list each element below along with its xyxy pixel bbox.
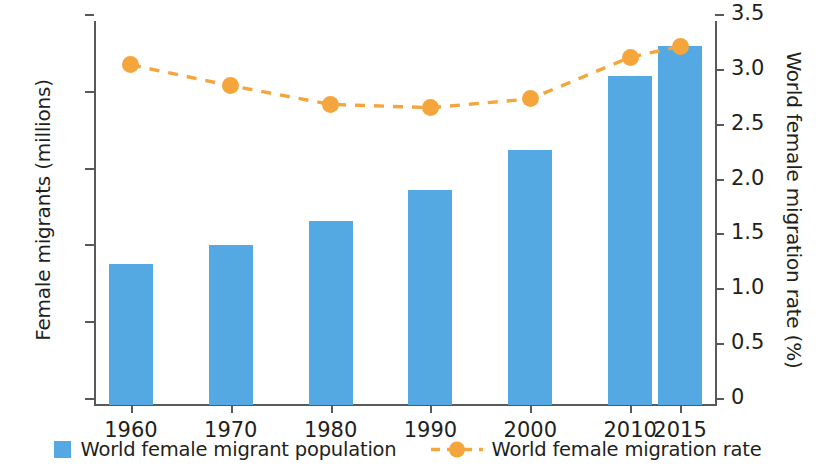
y-axis-right-tick-label: 2.5 xyxy=(731,113,816,134)
y-axis-right-tick-label: 0.5 xyxy=(731,332,816,353)
y-axis-right-tick-label: 3.0 xyxy=(731,58,816,79)
y-axis-right-tick xyxy=(715,124,724,126)
x-axis-tick xyxy=(331,404,333,413)
y-axis-right-tick-label: 3.5 xyxy=(731,3,816,24)
y-axis-right-tick xyxy=(715,179,724,181)
line-marker xyxy=(322,96,339,113)
y-axis-right-tick xyxy=(715,398,724,400)
y-axis-right-tick-label: 1.5 xyxy=(731,222,816,243)
x-axis-tick xyxy=(530,404,532,413)
y-axis-right-tick-label: 0 xyxy=(731,387,816,408)
plot-area: 0255075100125 00.51.01.52.02.53.03.5 196… xyxy=(97,14,714,398)
line-marker xyxy=(672,38,689,55)
y-axis-left-title: Female migrants (millions) xyxy=(31,45,55,375)
left-axis-spine xyxy=(94,21,96,405)
y-axis-right-title: World female migration rate (%) xyxy=(782,45,806,375)
y-axis-right-tick-label: 2.0 xyxy=(731,168,816,189)
line-marker xyxy=(422,99,439,116)
x-axis-tick xyxy=(231,404,233,413)
y-axis-left-tick xyxy=(85,244,94,246)
x-axis-tick xyxy=(630,404,632,413)
y-axis-left-tick xyxy=(85,91,94,93)
line-marker xyxy=(622,49,639,66)
right-axis-spine xyxy=(715,21,717,405)
legend-item[interactable]: World female migration rate xyxy=(431,438,762,461)
line-series xyxy=(97,21,714,405)
rate-line-path xyxy=(97,21,714,405)
legend-dashed-line-marker-icon xyxy=(431,441,483,458)
y-axis-left-tick xyxy=(85,14,94,16)
y-axis-right-tick-label: 1.0 xyxy=(731,277,816,298)
chart-legend: World female migrant populationWorld fem… xyxy=(0,438,816,461)
chart-figure: Female migrants (millions) World female … xyxy=(0,0,816,471)
y-axis-right-tick xyxy=(715,233,724,235)
x-axis-tick xyxy=(131,404,133,413)
y-axis-left-tick xyxy=(85,168,94,170)
legend-item[interactable]: World female migrant population xyxy=(54,438,396,461)
x-axis-tick xyxy=(680,404,682,413)
legend-item-label: World female migrant population xyxy=(80,438,396,461)
legend-bar-swatch-icon xyxy=(54,441,71,458)
legend-item-label: World female migration rate xyxy=(492,438,762,461)
x-axis-tick xyxy=(430,404,432,413)
y-axis-right-tick xyxy=(715,343,724,345)
y-axis-right-tick xyxy=(715,14,724,16)
y-axis-right-tick xyxy=(715,288,724,290)
y-axis-right-tick xyxy=(715,69,724,71)
y-axis-left-tick xyxy=(85,321,94,323)
y-axis-left-tick xyxy=(85,398,94,400)
